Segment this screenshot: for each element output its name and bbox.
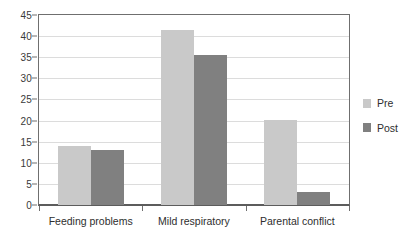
bar-pre	[161, 30, 194, 205]
y-tick-label: 25	[20, 94, 32, 105]
y-tick-label: 45	[20, 10, 32, 21]
y-tick-label: 30	[20, 73, 32, 84]
y-tick-label: 15	[20, 136, 32, 147]
chart-legend: PrePost	[363, 98, 398, 133]
y-tick-mark	[32, 183, 37, 184]
y-tick-label: 35	[20, 52, 32, 63]
y-tick-mark	[32, 120, 37, 121]
y-tick-mark	[32, 99, 37, 100]
x-tick-mark	[246, 206, 247, 211]
legend-label: Post	[377, 123, 398, 134]
legend-swatch-icon	[363, 123, 371, 132]
y-tick-mark	[32, 57, 37, 58]
x-category-label: Feeding problems	[39, 206, 142, 240]
bar-pre	[58, 146, 91, 205]
bar-post	[194, 55, 227, 205]
y-tick-label: 10	[20, 157, 32, 168]
y-axis: 051015202530354045	[0, 0, 38, 210]
x-category-label: Mild respiratory	[142, 206, 245, 240]
legend-label: Pre	[377, 98, 393, 109]
bars-layer	[39, 15, 349, 205]
bar-group	[142, 15, 245, 205]
legend-item-pre[interactable]: Pre	[363, 98, 398, 109]
y-tick-mark	[32, 15, 37, 16]
y-tick-mark	[32, 78, 37, 79]
y-tick-label: 40	[20, 31, 32, 42]
y-tick-mark	[32, 141, 37, 142]
x-tick-mark	[39, 206, 40, 211]
legend-item-post[interactable]: Post	[363, 123, 398, 134]
legend-swatch-icon	[363, 99, 371, 108]
x-axis: Feeding problemsMild respiratoryParental…	[39, 206, 349, 240]
bar-post	[297, 192, 330, 206]
bar-pre	[264, 120, 297, 205]
y-tick-mark	[32, 162, 37, 163]
bar-chart: 051015202530354045 Feeding problemsMild …	[0, 0, 416, 244]
x-tick-mark	[142, 206, 143, 211]
bar-group	[246, 15, 349, 205]
y-tick-mark	[32, 205, 37, 206]
bar-group	[39, 15, 142, 205]
y-tick-mark	[32, 36, 37, 37]
y-tick-label: 20	[20, 115, 32, 126]
x-tick-mark	[349, 206, 350, 211]
x-category-label: Parental conflict	[246, 206, 349, 240]
bar-post	[91, 150, 124, 205]
